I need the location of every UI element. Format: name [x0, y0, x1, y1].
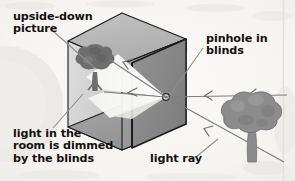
- projected-tree-trunk: [92, 72, 98, 91]
- label-pinhole-in-blinds: pinhole in blinds: [206, 33, 268, 58]
- label-light-ray: light ray: [150, 153, 202, 165]
- figure-canvas: upside-down picture pinhole in blinds li…: [0, 0, 295, 181]
- label-upside-down-picture: upside-down picture: [13, 11, 93, 36]
- label-light-dimmed-by-blinds: light in the room is dimmed by the blind…: [13, 128, 113, 165]
